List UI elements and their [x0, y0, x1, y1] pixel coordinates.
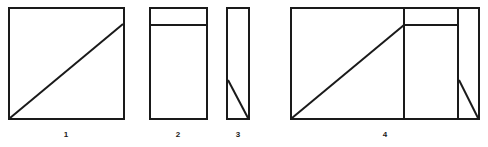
panel-1-rect [9, 8, 124, 119]
panel-3-group: 3 [227, 8, 249, 139]
panel-3-rect [227, 8, 249, 119]
panel-2-caption: 2 [176, 130, 181, 139]
figure-panel: 1 2 3 4 [0, 0, 488, 147]
geometry-diagram: 1 2 3 4 [0, 0, 488, 147]
panel-4-group: 4 [291, 8, 479, 139]
panel-2-group: 2 [150, 8, 207, 139]
panel-1-group: 1 [9, 8, 124, 139]
panel-4-caption: 4 [383, 130, 388, 139]
panel-1-caption: 1 [64, 130, 69, 139]
panel-3-caption: 3 [236, 130, 241, 139]
